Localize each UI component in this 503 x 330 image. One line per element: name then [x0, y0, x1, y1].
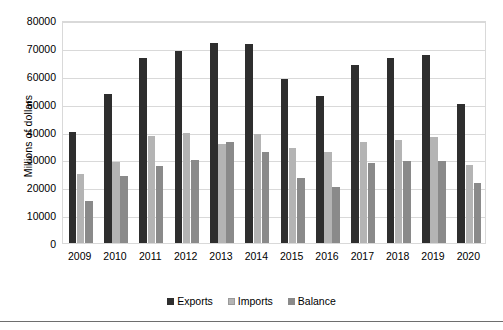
- x-axis-tick-label: 2020: [457, 250, 480, 262]
- legend-label: Exports: [177, 295, 213, 307]
- y-axis-tick-label: 20000: [2, 183, 56, 194]
- bar-group: [422, 22, 446, 243]
- y-axis-tick-label: 40000: [2, 127, 56, 138]
- bar-imports-2010: [112, 162, 120, 243]
- bar-balance-2011: [156, 166, 164, 243]
- y-axis-tick-label: 70000: [2, 43, 56, 54]
- bar-exports-2016: [316, 96, 324, 243]
- bar-exports-2014: [245, 44, 253, 243]
- bar-group: [104, 22, 128, 243]
- legend-item-exports[interactable]: Exports: [167, 295, 213, 307]
- plot-area: [62, 21, 486, 244]
- bar-balance-2010: [120, 176, 128, 243]
- bar-imports-2015: [289, 148, 297, 243]
- x-axis-tick-label: 2018: [386, 250, 409, 262]
- x-axis-tick-label: 2015: [280, 250, 303, 262]
- bar-imports-2014: [254, 134, 262, 243]
- bar-imports-2013: [218, 144, 226, 244]
- bar-group: [175, 22, 199, 243]
- bar-balance-2015: [297, 178, 305, 244]
- legend-item-balance[interactable]: Balance: [288, 295, 336, 307]
- bar-exports-2020: [457, 104, 465, 243]
- x-axis-tick-label: 2019: [421, 250, 444, 262]
- legend-swatch-icon: [167, 298, 174, 305]
- x-axis-tick-label: 2010: [103, 250, 126, 262]
- x-axis-tick-label: 2016: [315, 250, 338, 262]
- y-axis-tick-label: 80000: [2, 16, 56, 27]
- bar-group: [281, 22, 305, 243]
- bar-exports-2017: [351, 65, 359, 243]
- legend-item-imports[interactable]: Imports: [228, 295, 273, 307]
- x-axis-tick-label: 2012: [174, 250, 197, 262]
- bar-group: [316, 22, 340, 243]
- y-axis-tick-label: 0: [2, 239, 56, 250]
- bar-balance-2012: [191, 160, 199, 243]
- bar-exports-2018: [387, 58, 395, 243]
- bar-balance-2009: [85, 201, 93, 243]
- chart-legend: ExportsImportsBalance: [0, 295, 503, 307]
- bar-balance-2018: [403, 161, 411, 243]
- bar-imports-2011: [148, 136, 156, 243]
- bar-imports-2020: [466, 165, 474, 243]
- y-axis-tick-label: 10000: [2, 211, 56, 222]
- x-axis-tick-label: 2013: [209, 250, 232, 262]
- x-axis-tick-label: 2011: [139, 250, 162, 262]
- bar-balance-2014: [262, 152, 270, 243]
- bar-group: [387, 22, 411, 243]
- bar-group: [210, 22, 234, 243]
- x-axis-tick-label: 2017: [351, 250, 374, 262]
- y-axis-tick-label: 60000: [2, 71, 56, 82]
- bar-exports-2011: [139, 58, 147, 243]
- bar-balance-2016: [332, 187, 340, 243]
- bar-exports-2015: [281, 79, 289, 243]
- bar-exports-2012: [175, 51, 183, 243]
- bar-imports-2019: [430, 137, 438, 243]
- bar-balance-2017: [368, 163, 376, 243]
- legend-label: Imports: [238, 295, 273, 307]
- bar-imports-2016: [324, 152, 332, 243]
- bar-imports-2018: [395, 140, 403, 243]
- y-axis-tick-label: 30000: [2, 155, 56, 166]
- bar-group: [245, 22, 269, 243]
- bar-balance-2019: [438, 161, 446, 243]
- x-axis-tick-label: 2014: [245, 250, 268, 262]
- bar-chart: Millions of dollars 01000020000300004000…: [0, 0, 503, 330]
- bar-imports-2017: [360, 142, 368, 243]
- bar-group: [457, 22, 481, 243]
- bar-imports-2009: [77, 174, 85, 243]
- bar-group: [351, 22, 375, 243]
- x-axis-tick-label: 2009: [68, 250, 91, 262]
- bar-imports-2012: [183, 133, 191, 243]
- bar-balance-2013: [226, 142, 234, 243]
- legend-swatch-icon: [228, 298, 235, 305]
- bar-exports-2019: [422, 55, 430, 243]
- legend-label: Balance: [298, 295, 336, 307]
- bar-exports-2010: [104, 94, 112, 243]
- bar-exports-2009: [69, 132, 77, 243]
- bar-group: [139, 22, 163, 243]
- bar-group: [69, 22, 93, 243]
- bar-exports-2013: [210, 43, 218, 243]
- bar-balance-2020: [474, 183, 482, 243]
- bottom-divider: [0, 321, 503, 322]
- legend-swatch-icon: [288, 298, 295, 305]
- y-axis-tick-label: 50000: [2, 99, 56, 110]
